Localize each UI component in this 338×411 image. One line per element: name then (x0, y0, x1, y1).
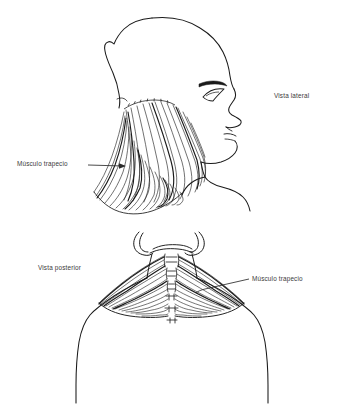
figure-background (0, 0, 338, 411)
label-musculo-trapecio-lateral: Músculo trapecio (17, 160, 68, 167)
label-musculo-trapecio-posterior: Músculo trapecio (252, 275, 303, 282)
anatomy-illustration (0, 0, 338, 411)
label-vista-lateral: Vista lateral (274, 92, 309, 99)
label-vista-posterior: Vista posterior (38, 264, 81, 271)
